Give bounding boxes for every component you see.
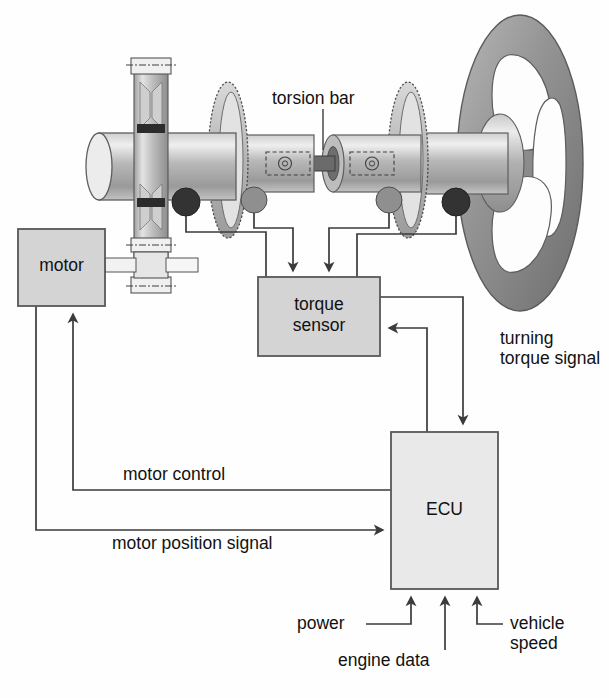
power-label: power [297,613,345,633]
motor-control-label: motor control [123,464,225,484]
wire-vehicle-speed-to-ecu [477,597,503,624]
torsion-bar [311,156,335,171]
ecu-box-label: ECU [391,499,498,520]
torque-sensor-box-label: torque sensor [258,294,380,336]
torsion-bar-label: torsion bar [272,88,355,108]
diagram-canvas: motor torque sensor ECU torsion bar turn… [0,0,609,698]
vehicle-speed-label: vehicle speed [510,613,564,653]
wire-coil-light-left [254,213,293,271]
coil-light-right [376,187,402,213]
coil-dark-left [172,188,200,216]
coil-light-left [241,187,267,213]
wire-power-to-ecu [366,597,411,624]
motor-box-label: motor [18,255,105,276]
wire-coil-light-right [329,213,389,271]
wire-turning-torque-signal [380,297,463,424]
engine-data-label: engine data [338,650,429,670]
coil-dark-right [442,188,470,216]
turning-torque-signal-label: turning torque signal [500,328,600,368]
steering-shaft-mid-right [322,135,421,192]
wire-ecu-to-torque-sensor [389,328,427,432]
motor-position-signal-label: motor position signal [112,533,273,553]
